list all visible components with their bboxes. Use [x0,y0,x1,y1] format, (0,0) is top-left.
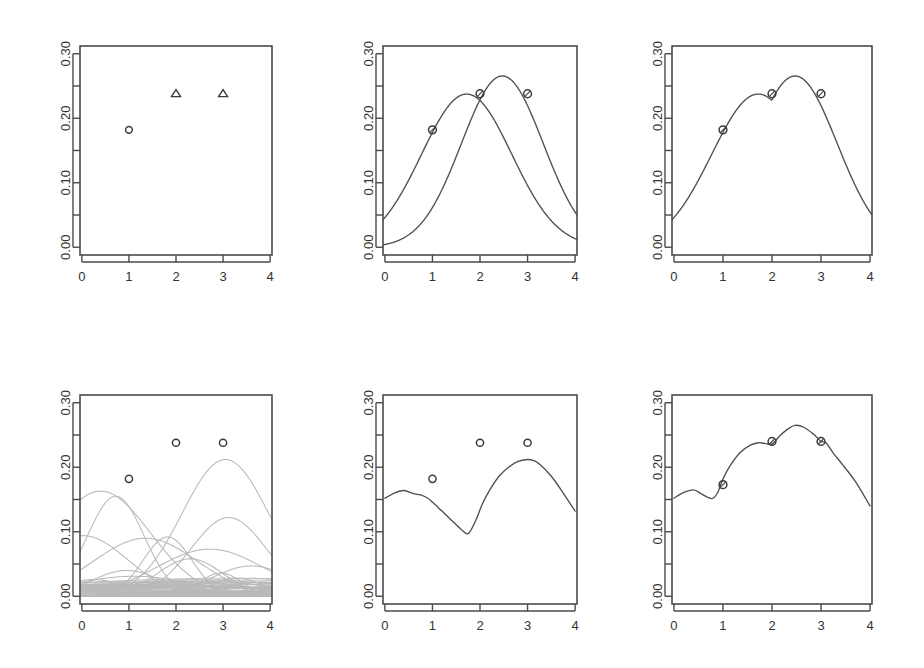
x-axis-3: 01234 [670,255,873,284]
y-tick-label-0.30: 0.30 [361,41,376,66]
y-tick-label-0.30: 0.30 [58,41,73,66]
figure-canvas: 0.000.100.200.30012340.000.100.200.30012… [0,0,924,668]
data-point-circle-0 [125,475,132,482]
y-tick-label-0.20: 0.20 [361,455,376,480]
x-tick-label-0: 0 [670,618,677,633]
x-tick-label-0: 0 [381,269,388,284]
y-axis-6: 0.000.100.200.30 [650,390,672,609]
x-tick-label-2: 2 [768,269,775,284]
plot-frame-1 [80,46,272,255]
plot-area-4 [80,460,272,597]
curve-gaussian-a [383,94,577,239]
y-axis-1: 0.000.100.200.30 [58,41,80,260]
y-tick-label-0.10: 0.10 [361,519,376,544]
y-tick-label-0.10: 0.10 [650,170,665,195]
x-axis-4: 01234 [78,604,273,633]
y-tick-label-0.00: 0.00 [361,584,376,609]
x-tick-label-4: 4 [571,618,578,633]
plot-svg-3: 0.000.100.200.3001234 [610,28,892,301]
y-tick-label-0.10: 0.10 [650,519,665,544]
x-tick-label-2: 2 [476,618,483,633]
plot-panel-3: 0.000.100.200.3001234 [610,28,892,301]
x-tick-label-0: 0 [78,618,85,633]
x-tick-label-3: 3 [817,618,824,633]
x-axis-2: 01234 [381,255,578,284]
plot-frame-3 [672,46,872,255]
x-tick-label-4: 4 [267,618,274,633]
y-tick-label-0.20: 0.20 [58,106,73,131]
plot-svg-4: 0.000.100.200.3001234 [18,377,292,650]
plot-panel-5: 0.000.100.200.3001234 [321,377,597,650]
plot-frame-5 [383,395,577,604]
y-tick-label-0.00: 0.00 [58,235,73,260]
x-axis-6: 01234 [670,604,873,633]
curve-basis-upper-envelope [385,459,575,534]
plot-svg-6: 0.000.100.200.3001234 [610,377,892,650]
y-tick-label-0.00: 0.00 [361,235,376,260]
x-tick-label-1: 1 [429,269,436,284]
x-tick-label-3: 3 [524,618,531,633]
y-tick-label-0.20: 0.20 [650,106,665,131]
plot-svg-2: 0.000.100.200.3001234 [321,28,597,301]
y-axis-2: 0.000.100.200.30 [361,41,383,260]
y-tick-label-0.20: 0.20 [58,455,73,480]
x-tick-label-2: 2 [476,269,483,284]
plot-panel-2: 0.000.100.200.3001234 [321,28,597,301]
x-tick-label-3: 3 [817,269,824,284]
x-tick-label-1: 1 [125,618,132,633]
data-point-circle-1 [476,439,483,446]
x-tick-label-4: 4 [866,618,873,633]
curve-basis-03 [80,460,272,596]
plot-panel-6: 0.000.100.200.3001234 [610,377,892,650]
x-tick-label-1: 1 [125,269,132,284]
x-tick-label-3: 3 [219,269,226,284]
y-tick-label-0.10: 0.10 [58,170,73,195]
x-tick-label-0: 0 [670,269,677,284]
x-tick-label-3: 3 [219,618,226,633]
y-tick-label-0.10: 0.10 [58,519,73,544]
data-point-circle-0-0 [126,126,133,133]
x-tick-label-0: 0 [381,618,388,633]
y-tick-label-0.00: 0.00 [650,584,665,609]
data-point-triangle-1-1 [219,90,228,97]
data-point-circle-2 [219,439,226,446]
x-tick-label-1: 1 [429,618,436,633]
x-axis-5: 01234 [381,604,578,633]
data-point-circle-0 [429,475,436,482]
x-tick-label-2: 2 [768,618,775,633]
x-tick-label-2: 2 [172,618,179,633]
data-point-circle-1 [172,439,179,446]
x-tick-label-4: 4 [866,269,873,284]
data-point-circle-2 [524,439,531,446]
plot-area-5 [385,459,575,534]
y-tick-label-0.20: 0.20 [650,455,665,480]
x-tick-label-3: 3 [524,269,531,284]
y-tick-label-0.30: 0.30 [650,41,665,66]
x-tick-label-4: 4 [571,269,578,284]
y-axis-5: 0.000.100.200.30 [361,390,383,609]
plot-frame-6 [672,395,872,604]
y-tick-label-0.30: 0.30 [650,390,665,415]
x-tick-label-0: 0 [78,269,85,284]
data-point-circle-cross-2 [817,90,825,98]
plot-panel-4: 0.000.100.200.3001234 [18,377,292,650]
x-tick-label-1: 1 [719,618,726,633]
y-axis-4: 0.000.100.200.30 [58,390,80,609]
data-point-triangle-1-0 [171,90,180,97]
y-tick-label-0.30: 0.30 [58,390,73,415]
x-tick-label-4: 4 [267,269,274,284]
y-tick-label-0.00: 0.00 [58,584,73,609]
x-tick-label-1: 1 [719,269,726,284]
plot-frame-2 [383,46,577,255]
x-tick-label-2: 2 [172,269,179,284]
y-tick-label-0.20: 0.20 [361,106,376,131]
plot-panel-1: 0.000.100.200.3001234 [18,28,292,301]
y-tick-label-0.00: 0.00 [650,235,665,260]
plot-area-2 [383,76,577,245]
plot-svg-5: 0.000.100.200.3001234 [321,377,597,650]
y-tick-label-0.10: 0.10 [361,170,376,195]
plot-svg-1: 0.000.100.200.3001234 [18,28,292,301]
x-axis-1: 01234 [78,255,273,284]
y-axis-3: 0.000.100.200.30 [650,41,672,260]
y-tick-label-0.30: 0.30 [361,390,376,415]
